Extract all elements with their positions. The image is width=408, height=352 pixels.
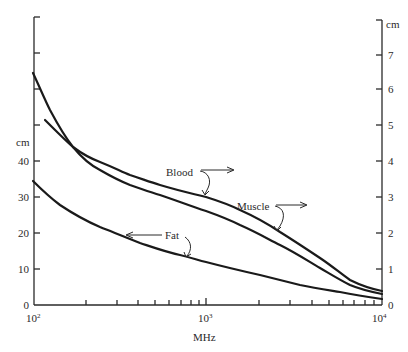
- muscle-curve: [33, 73, 382, 294]
- x-axis: 102 103 104 MHz: [26, 298, 387, 343]
- right-tick-label: 7: [388, 49, 394, 61]
- muscle-label: Muscle: [237, 200, 270, 212]
- right-tick-label: 3: [388, 191, 394, 203]
- fat-annotation: Fat: [126, 229, 191, 257]
- right-y-axis: cm 7 6 5 4 3 2 1 0: [376, 18, 400, 311]
- left-tick-label: 40: [18, 155, 30, 167]
- left-axis-unit: cm: [16, 136, 30, 148]
- x-tick-label-10000: 104: [372, 312, 387, 324]
- x-tick-label-100: 102: [26, 312, 41, 324]
- right-axis-unit: cm: [386, 18, 400, 30]
- blood-curve: [45, 120, 382, 291]
- blood-label: Blood: [166, 166, 193, 178]
- right-tick-label: 4: [388, 155, 394, 167]
- right-tick-label: 6: [388, 83, 394, 95]
- left-tick-label: 20: [18, 227, 30, 239]
- right-tick-label: 5: [388, 119, 394, 131]
- fat-label: Fat: [165, 229, 179, 241]
- x-axis-label: MHz: [193, 331, 216, 343]
- left-tick-label: 0: [24, 299, 30, 311]
- left-tick-label: 10: [18, 263, 30, 275]
- right-tick-label: 0: [388, 299, 394, 311]
- left-tick-label: 30: [18, 191, 30, 203]
- right-tick-label: 2: [388, 227, 394, 239]
- penetration-depth-chart: cm 40 30 20 10 0 cm 7 6 5 4 3 2 1 0: [0, 0, 408, 352]
- right-tick-label: 1: [388, 263, 394, 275]
- left-y-axis: cm 40 30 20 10 0: [16, 17, 40, 311]
- fat-curve: [33, 181, 382, 299]
- x-tick-label-1000: 103: [198, 312, 213, 324]
